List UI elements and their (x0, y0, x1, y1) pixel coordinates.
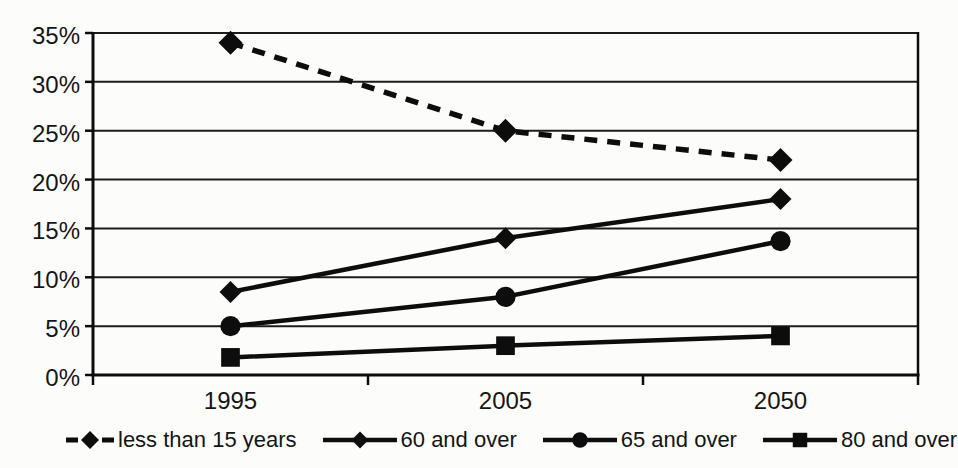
legend-diamond-glyph (351, 432, 368, 449)
diamond-marker-icon (220, 281, 242, 303)
legend-diamond-marker-icon (323, 428, 397, 452)
legend-diamond-glyph (81, 431, 99, 449)
circle-marker-icon (220, 316, 240, 336)
diamond-marker-icon (495, 227, 517, 249)
legend-label: 65 and over (621, 427, 737, 453)
legend-diamond-marker-icon (66, 428, 114, 452)
legend-square-glyph (793, 433, 807, 447)
legend-label: less than 15 years (118, 427, 297, 453)
y-tick-label: 25% (32, 120, 80, 147)
legend-item-less-than-15-years: less than 15 years (66, 427, 297, 453)
y-tick-label: 20% (32, 169, 80, 196)
diamond-marker-icon (494, 119, 518, 143)
x-tick-label: 2005 (479, 387, 532, 414)
legend-item-60-and-over: 60 and over (323, 427, 517, 453)
diamond-marker-icon (219, 31, 243, 55)
legend-dash (66, 438, 78, 443)
y-tick-label: 5% (45, 315, 80, 342)
circle-marker-icon (495, 287, 515, 307)
legend-dash (102, 438, 114, 443)
legend-item-80-and-over: 80 and over (763, 427, 957, 453)
circle-marker-icon (770, 231, 790, 251)
square-marker-icon (221, 348, 240, 367)
square-marker-icon (496, 336, 515, 355)
y-tick-label: 15% (32, 217, 80, 244)
y-tick-label: 0% (45, 364, 80, 391)
y-tick-label: 30% (32, 71, 80, 98)
series-line-65-and-over (231, 241, 781, 326)
legend-square-marker-icon (763, 428, 837, 452)
legend-circle-glyph (572, 432, 588, 448)
chart-legend: less than 15 years60 and over65 and over… (66, 427, 957, 453)
legend-label: 80 and over (841, 427, 957, 453)
diamond-marker-icon (770, 188, 792, 210)
x-tick-label: 1995 (204, 387, 257, 414)
population-age-chart: 0%5%10%15%20%25%30%35%199520052050 less … (0, 0, 958, 468)
y-tick-label: 10% (32, 266, 80, 293)
legend-circle-marker-icon (543, 428, 617, 452)
diamond-marker-icon (769, 148, 793, 172)
square-marker-icon (771, 327, 790, 346)
y-tick-label: 35% (32, 22, 80, 49)
legend-item-65-and-over: 65 and over (543, 427, 737, 453)
chart-plot-area: 0%5%10%15%20%25%30%35%199520052050 (0, 0, 958, 424)
legend-label: 60 and over (401, 427, 517, 453)
x-tick-label: 2050 (754, 387, 807, 414)
